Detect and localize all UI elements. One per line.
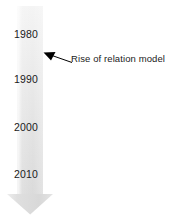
annotation-label-rise-of-relation-model: Rise of relation model — [71, 53, 165, 65]
annotation-line — [52, 56, 72, 63]
year-label-1990: 1990 — [14, 73, 48, 85]
timeline-diagram: 1980 1990 2000 2010 Rise of relation mod… — [0, 0, 181, 220]
year-label-2000: 2000 — [14, 121, 48, 133]
year-label-1980: 1980 — [14, 28, 48, 40]
timeline-arrowhead — [7, 194, 53, 215]
year-label-2010: 2010 — [14, 168, 48, 180]
